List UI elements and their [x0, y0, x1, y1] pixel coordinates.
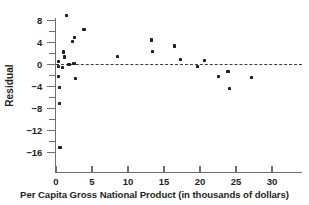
data-point: [71, 40, 74, 43]
data-point: [58, 86, 61, 89]
y-minor-tick-3: [49, 75, 55, 76]
x-tick-label-5: 25: [223, 177, 249, 187]
y-minor-tick-4: [49, 97, 55, 98]
y-tick-label-3: −4: [18, 82, 42, 92]
data-point: [250, 76, 253, 79]
data-point: [82, 28, 85, 31]
y-tick-0: [47, 20, 55, 21]
data-point: [58, 146, 61, 149]
residual-plot-figure: 840−4−8−12−16 051015202530 Residual Per …: [0, 0, 309, 205]
y-minor-tick-1: [49, 31, 55, 32]
y-tick-3: [47, 86, 55, 87]
x-tick-label-0: 0: [43, 177, 69, 187]
y-axis-title: Residual: [4, 46, 15, 126]
y-tick-4: [47, 108, 55, 109]
data-point: [226, 70, 229, 73]
data-point: [228, 87, 231, 90]
y-minor-tick-2: [49, 53, 55, 54]
x-tick-label-6: 30: [259, 177, 285, 187]
x-tick-0: [55, 166, 56, 172]
x-tick-label-1: 5: [79, 177, 105, 187]
x-tick-3: [163, 166, 164, 172]
x-tick-2: [127, 166, 128, 172]
data-point: [116, 55, 119, 58]
data-point: [57, 60, 60, 63]
x-tick-label-2: 10: [115, 177, 141, 187]
y-tick-label-6: −16: [18, 148, 42, 158]
x-tick-1: [91, 166, 92, 172]
y-tick-label-0: 8: [18, 16, 42, 26]
data-point: [57, 65, 60, 68]
x-tick-5: [235, 166, 236, 172]
data-point: [173, 44, 176, 47]
y-tick-label-4: −8: [18, 104, 42, 114]
data-point: [203, 59, 206, 62]
data-point: [65, 14, 68, 17]
x-axis-line: [56, 172, 302, 173]
x-axis-title: Per Capita Gross National Product (in th…: [0, 189, 309, 200]
y-axis-line: [55, 18, 56, 173]
data-point: [61, 66, 64, 69]
data-point: [68, 63, 71, 66]
x-tick-label-3: 15: [151, 177, 177, 187]
y-tick-6: [47, 152, 55, 153]
data-point: [62, 50, 65, 53]
y-tick-label-1: 4: [18, 38, 42, 48]
plot-area: 840−4−8−12−16 051015202530 Residual Per …: [0, 0, 309, 205]
data-point: [151, 50, 154, 53]
data-point: [179, 58, 182, 61]
data-point: [150, 38, 153, 41]
y-minor-tick-5: [49, 119, 55, 120]
y-tick-2: [47, 64, 55, 65]
x-tick-label-4: 20: [187, 177, 213, 187]
data-point: [58, 102, 61, 105]
data-point: [217, 75, 220, 78]
y-minor-tick-6: [49, 141, 55, 142]
data-point: [74, 77, 77, 80]
data-point: [57, 75, 60, 78]
data-point: [196, 65, 199, 68]
data-point: [73, 36, 76, 39]
y-tick-label-2: 0: [18, 60, 42, 70]
x-tick-6: [271, 166, 272, 172]
data-point: [63, 55, 66, 58]
y-tick-label-5: −12: [18, 126, 42, 136]
zero-reference-line: [56, 64, 302, 65]
x-tick-4: [199, 166, 200, 172]
y-tick-1: [47, 42, 55, 43]
y-tick-5: [47, 130, 55, 131]
data-point: [72, 62, 75, 65]
top-crop-band: [0, 0, 309, 6]
